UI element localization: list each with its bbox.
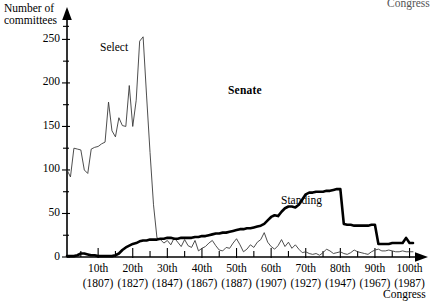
y-axis-title-line1: Number of (4, 2, 54, 14)
series-line-select (67, 37, 413, 255)
series-label-select: Select (100, 41, 128, 53)
x-axis-title-above: Congress (387, 0, 430, 9)
y-axis-title: Number ofcommittees (4, 2, 57, 26)
y-axis-tick-label: 50 (26, 206, 60, 218)
chart-plot-area (0, 0, 438, 303)
senate-committees-chart: Number ofcommittees Senate Select Standi… (0, 0, 438, 303)
y-axis-tick-label: 150 (26, 119, 60, 131)
x-axis-tick-label-congress: 100th (388, 262, 432, 274)
x-axis-arrow-icon (415, 252, 428, 262)
y-axis-ticks (62, 26, 70, 257)
y-axis-tick-label: 250 (26, 32, 60, 44)
y-axis-arrow-icon (62, 7, 72, 20)
x-axis-tick-label-year: (1987) (387, 277, 433, 289)
y-axis-tick-label: 0 (26, 250, 60, 262)
chart-title: Senate (228, 84, 262, 96)
x-axis-title: Congress (383, 288, 426, 300)
series-label-standing: Standing (281, 194, 322, 206)
y-axis-tick-label: 200 (26, 75, 60, 87)
y-axis-title-line2: committees (4, 14, 57, 26)
series-line-standing (67, 189, 413, 256)
y-axis-tick-label: 100 (26, 162, 60, 174)
